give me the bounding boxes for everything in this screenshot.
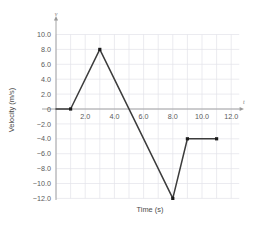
x-tick-label: 2.0 [80,112,90,121]
x-axis-title: Time (s) [137,205,164,214]
y-tick-label: 8.0 [41,45,51,54]
axis-lines [42,16,244,200]
y-tick-label: 4.0 [41,75,51,84]
y-tick-label: 10.0 [37,30,51,39]
x-axis-letter: t [243,99,245,105]
x-tick-label: 4.0 [109,112,119,121]
x-tick-label: 8.0 [168,112,178,121]
x-tick-labels: 2.04.06.08.010.012.0 [80,112,238,121]
y-tick-label: −4.0 [37,134,51,143]
data-point-marker [186,137,189,140]
data-point-marker [69,107,72,110]
y-axis-letter: v [55,11,58,17]
velocity-time-chart: 2.04.06.08.010.012.0 10.08.06.04.02.00−2… [0,0,261,225]
x-tick-label: 12.0 [224,112,238,121]
y-tick-label: 0 [47,105,51,114]
chart-plot-area: 2.04.06.08.010.012.0 10.08.06.04.02.00−2… [0,0,261,225]
data-point-marker [171,197,174,200]
y-tick-label: −8.0 [37,164,51,173]
y-axis-title: Velocity (m/s) [7,88,16,132]
y-tick-label: 6.0 [41,60,51,69]
y-tick-label: −2.0 [37,120,51,129]
y-tick-label: −12.0 [33,194,51,203]
y-tick-label: −6.0 [37,149,51,158]
y-tick-labels: 10.08.06.04.02.00−2.0−4.0−6.0−8.0−10.0−1… [33,30,51,203]
x-axis-arrow [240,107,244,111]
x-tick-label: 10.0 [195,112,209,121]
data-point-marker [98,48,101,51]
y-tick-label: −10.0 [33,179,51,188]
y-tick-label: 2.0 [41,90,51,99]
x-tick-label: 6.0 [139,112,149,121]
data-point-marker [215,137,218,140]
